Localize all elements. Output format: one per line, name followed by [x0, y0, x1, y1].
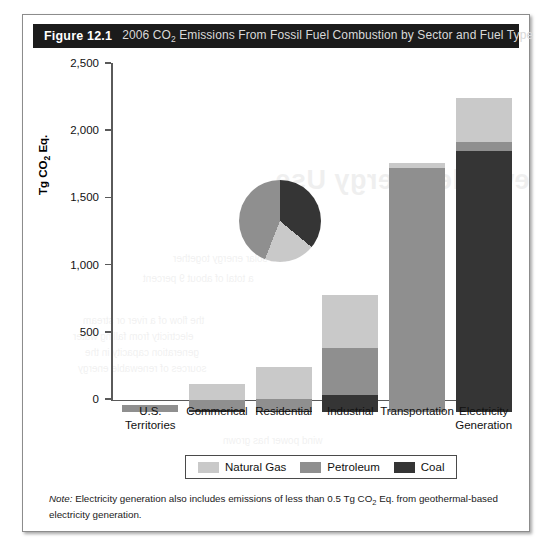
y-axis-tick-label: 0 [39, 393, 99, 405]
x-axis-label: ElectricityGeneration [447, 405, 521, 432]
y-axis-title-subscript: 2 [42, 156, 52, 161]
note-label: Note: [49, 493, 72, 504]
legend-swatch-icon [394, 462, 415, 473]
bar-segment[interactable] [322, 295, 378, 347]
bar-segment[interactable] [189, 384, 245, 400]
x-axis-label-line: Electricity [447, 405, 521, 419]
figure-number: Figure 12.1 [44, 29, 112, 43]
y-axis-tick-label: 2,000 [39, 124, 99, 136]
x-axis-label-line: Territories [113, 419, 187, 433]
bar-segment[interactable] [389, 168, 445, 412]
y-axis-line [111, 63, 113, 401]
bar-segment[interactable] [456, 98, 512, 142]
note-text-part1: Electricity generation also includes emi… [72, 493, 372, 504]
x-axis-label-line: Industrial [313, 405, 387, 419]
bar-stack[interactable] [322, 295, 378, 411]
x-axis-label-line: Generation [447, 419, 521, 433]
chart-legend: Natural GasPetroleumCoal [185, 455, 457, 479]
inset-pie-chart [239, 180, 321, 262]
x-axis-label-line: Residential [247, 405, 321, 419]
x-axis-label-line: Commerical [180, 405, 254, 419]
y-axis-tick-label: 500 [39, 326, 99, 338]
bar-segment[interactable] [456, 142, 512, 151]
x-axis-label-line: Transportation [380, 405, 454, 419]
legend-item[interactable]: Coal [394, 461, 445, 473]
chart-area: Tg CO2 Eq. 05001,0001,5002,0002,500 U.S.… [33, 55, 519, 487]
y-axis-tick-label: 1,500 [39, 191, 99, 203]
y-axis-tick-label: 1,000 [39, 259, 99, 271]
figure-title-bar: Figure 12.1 2006 CO2 Emissions From Foss… [33, 24, 519, 48]
figure-note: Note: Electricity generation also includ… [49, 493, 509, 522]
x-axis-label: Residential [247, 405, 321, 419]
bar-stack[interactable] [456, 98, 512, 412]
legend-swatch-icon [300, 462, 321, 473]
x-axis-label: Commerical [180, 405, 254, 419]
figure-title-prefix: 2006 CO [122, 28, 171, 42]
y-axis-tick [105, 331, 111, 333]
plot-area: 05001,0001,5002,0002,500 [111, 63, 511, 413]
legend-item[interactable]: Petroleum [300, 461, 379, 473]
figure-title: 2006 CO2 Emissions From Fossil Fuel Comb… [122, 28, 533, 44]
y-axis-tick [105, 62, 111, 64]
y-axis-tick [105, 197, 111, 199]
legend-label: Petroleum [327, 461, 379, 473]
y-axis-title-prefix: Tg CO [37, 161, 49, 196]
y-axis-title: Tg CO2 Eq. [37, 135, 52, 195]
x-axis-labels: U.S.TerritoriesCommericalResidentialIndu… [111, 405, 511, 447]
y-axis-tick [105, 264, 111, 266]
y-axis-tick-label: 2,500 [39, 57, 99, 69]
x-axis-label: Transportation [380, 405, 454, 419]
x-axis-label-line: U.S. [113, 405, 187, 419]
bar-segment[interactable] [322, 348, 378, 395]
x-axis-label: U.S.Territories [113, 405, 187, 432]
legend-item[interactable]: Natural Gas [198, 461, 286, 473]
y-axis-tick [105, 129, 111, 131]
y-axis-title-suffix: Eq. [37, 135, 49, 156]
x-axis-label: Industrial [313, 405, 387, 419]
bar-segment[interactable] [456, 151, 512, 411]
bar-stack[interactable] [389, 163, 445, 412]
bar-segment[interactable] [256, 367, 312, 399]
legend-label: Natural Gas [225, 461, 286, 473]
figure-container: Renewable Energy Use the flow of a river… [22, 14, 530, 532]
y-axis-tick [105, 398, 111, 400]
legend-swatch-icon [198, 462, 219, 473]
legend-label: Coal [421, 461, 445, 473]
figure-title-suffix: Emissions From Fossil Fuel Combustion by… [176, 28, 533, 42]
